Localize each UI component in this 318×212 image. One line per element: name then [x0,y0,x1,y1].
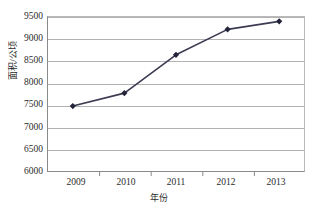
data-point-marker [276,18,282,24]
data-point-marker [225,26,231,32]
x-axis-tickmarks [100,172,255,176]
series-overlay [0,0,318,212]
series-line [73,21,279,106]
data-point-marker [70,103,76,109]
series-markers [70,18,283,109]
line-chart: 面积/公顷 9500 9000 8500 8000 7500 7000 6500… [0,0,318,212]
